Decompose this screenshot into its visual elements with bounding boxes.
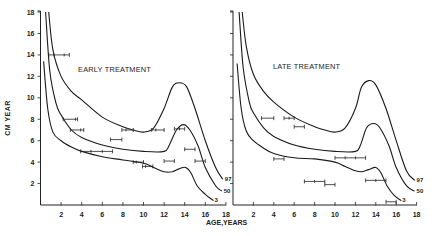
x-tick-label: 6 — [292, 211, 296, 218]
percentile-label-50: 50 — [417, 188, 424, 194]
x-tick-label: 2 — [251, 211, 255, 218]
percentile-curve-97 — [242, 12, 414, 180]
x-tick-label: 4 — [272, 211, 276, 218]
panel-title-early: EARLY TREATMENT — [78, 65, 151, 74]
x-tick-label: 16 — [201, 211, 209, 218]
x-tick-label: 8 — [313, 211, 317, 218]
y-tick-label: 16 — [27, 30, 35, 37]
y-tick-label: 10 — [27, 94, 35, 101]
y-tick-label: 14 — [27, 51, 35, 58]
x-tick-label: 14 — [181, 211, 189, 218]
percentile-label-97: 97 — [417, 177, 424, 183]
percentile-label-97: 97 — [225, 176, 232, 182]
panel-late: 2468101214161897503 — [230, 11, 424, 218]
y-tick-label: 12 — [27, 73, 35, 80]
x-tick-label: 16 — [392, 211, 400, 218]
x-axis-label: AGE,YEARS — [206, 219, 248, 227]
x-tick-label: 18 — [222, 211, 230, 218]
percentile-curve-3 — [44, 61, 214, 200]
percentile-curve-50 — [239, 12, 415, 191]
x-tick-label: 10 — [140, 211, 148, 218]
panel-title-late: LATE TREATMENT — [273, 62, 341, 71]
growth-velocity-chart: CM YEAR EARLY TREATMENT LATE TREATMENT A… — [0, 0, 434, 236]
y-tick-label: 6 — [31, 137, 35, 144]
x-tick-label: 12 — [160, 211, 168, 218]
y-tick-label: 8 — [31, 116, 35, 123]
x-tick-label: 6 — [100, 211, 104, 218]
x-tick-label: 8 — [121, 211, 125, 218]
x-tick-label: 2 — [59, 211, 63, 218]
x-tick-label: 4 — [80, 211, 84, 218]
x-tick-label: 14 — [372, 211, 380, 218]
percentile-label-50: 50 — [224, 188, 231, 194]
y-tick-label: 2 — [31, 180, 35, 187]
percentile-label-3: 3 — [402, 197, 406, 203]
x-tick-label: 10 — [331, 211, 339, 218]
percentile-curve-97 — [49, 12, 223, 179]
y-axis-label: CM YEAR — [4, 100, 11, 136]
percentile-label-3: 3 — [215, 197, 219, 203]
y-tick-label: 4 — [31, 159, 35, 166]
panel-early: 246810121416182468101214161897503 — [27, 9, 232, 218]
x-tick-label: 18 — [413, 211, 421, 218]
percentile-curve-50 — [46, 12, 222, 191]
y-tick-label: 18 — [27, 9, 35, 16]
x-tick-label: 12 — [352, 211, 360, 218]
